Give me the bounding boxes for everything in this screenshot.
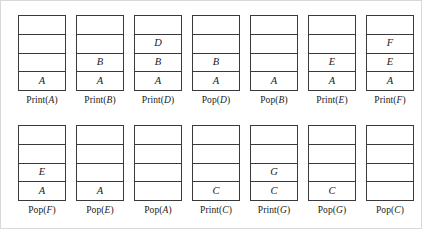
stack-step: CPop(G) [303, 125, 361, 215]
stack-box: EA [18, 125, 66, 201]
stack-box: A [18, 15, 66, 91]
stack-cell-filled: A [193, 72, 239, 90]
stack-cell-empty [309, 35, 355, 54]
stack-cell-filled: E [367, 54, 413, 73]
operation-prefix: Pop( [376, 205, 394, 215]
stack-cell-empty [309, 16, 355, 35]
stack-box: BA [192, 15, 240, 91]
stack-cell-filled: E [309, 54, 355, 73]
stack-operation-label: Print(F) [374, 95, 405, 105]
operation-suffix: ) [229, 205, 232, 215]
stack-cell-empty [367, 145, 413, 164]
stack-cell-empty [367, 16, 413, 35]
stack-step: GCPrint(G) [245, 125, 303, 215]
stack-box: EA [308, 15, 356, 91]
operation-prefix: Pop( [144, 205, 162, 215]
operation-suffix: ) [401, 205, 404, 215]
stack-cell-filled: A [367, 72, 413, 90]
stack-cell-empty [77, 164, 123, 183]
stack-operation-label: Print(G) [258, 205, 290, 215]
stack-box: DBA [134, 15, 182, 91]
stack-step: APop(E) [71, 125, 129, 215]
operation-suffix: ) [285, 95, 288, 105]
stack-cell-empty [193, 145, 239, 164]
stack-step: EAPop(F) [13, 125, 71, 215]
operation-prefix: Print( [200, 205, 222, 215]
stack-step-row-top: APrint(A)BAPrint(B)DBAPrint(D)BAPop(D)AP… [1, 15, 422, 105]
stack-cell-filled: A [77, 72, 123, 90]
stack-cell-empty [309, 164, 355, 183]
stack-cell-empty [367, 164, 413, 183]
operation-prefix: Print( [26, 95, 48, 105]
stack-cell-empty [135, 126, 181, 145]
stack-box: BA [76, 15, 124, 91]
stack-cell-empty [77, 35, 123, 54]
stack-operation-label: Print(C) [200, 205, 232, 215]
stack-cell-empty [19, 35, 65, 54]
stack-cell-filled: B [193, 54, 239, 73]
stack-cell-empty [193, 16, 239, 35]
operation-suffix: ) [402, 95, 405, 105]
stack-cell-filled: A [77, 182, 123, 200]
stack-cell-filled: A [309, 72, 355, 90]
stack-cell-empty [251, 54, 297, 73]
stack-cell-empty [19, 126, 65, 145]
operation-suffix: ) [53, 205, 56, 215]
stack-cell-empty [251, 126, 297, 145]
operation-prefix: Print( [316, 95, 338, 105]
stack-cell-empty [135, 164, 181, 183]
stack-cell-empty [19, 16, 65, 35]
stack-box: FEA [366, 15, 414, 91]
stack-operation-label: Pop(E) [86, 205, 114, 215]
stack-box [134, 125, 182, 201]
operation-prefix: Print( [374, 95, 396, 105]
operation-suffix: ) [171, 95, 174, 105]
stack-cell-empty [135, 182, 181, 200]
stack-cell-empty [309, 145, 355, 164]
stack-step: BAPrint(B) [71, 15, 129, 105]
stack-cell-filled: F [367, 35, 413, 54]
stack-cell-filled: C [309, 182, 355, 200]
stack-step: APop(B) [245, 15, 303, 105]
stack-cell-empty [77, 145, 123, 164]
stack-cell-empty [135, 16, 181, 35]
stack-step: DBAPrint(D) [129, 15, 187, 105]
stack-operation-label: Print(E) [316, 95, 347, 105]
operation-prefix: Print( [142, 95, 164, 105]
stack-box: A [76, 125, 124, 201]
operation-prefix: Pop( [318, 205, 336, 215]
stack-cell-filled: A [251, 72, 297, 90]
operation-argument: D [220, 95, 227, 105]
stack-cell-filled: A [19, 182, 65, 200]
stack-cell-filled: E [19, 164, 65, 183]
stack-operation-label: Pop(G) [318, 205, 347, 215]
stack-operation-label: Print(B) [84, 95, 115, 105]
stack-cell-filled: A [135, 72, 181, 90]
stack-cell-empty [19, 54, 65, 73]
stack-cell-filled: D [135, 35, 181, 54]
operation-prefix: Print( [84, 95, 106, 105]
stack-cell-filled: C [251, 182, 297, 200]
stack-cell-empty [193, 164, 239, 183]
stack-cell-empty [193, 126, 239, 145]
operation-suffix: ) [111, 205, 114, 215]
stack-step: FEAPrint(F) [361, 15, 419, 105]
stack-box [366, 125, 414, 201]
stack-cell-empty [309, 126, 355, 145]
stack-cell-empty [367, 126, 413, 145]
operation-prefix: Pop( [86, 205, 104, 215]
operation-suffix: ) [112, 95, 115, 105]
stack-step-row-bottom: EAPop(F)APop(E)Pop(A)CPrint(C)GCPrint(G)… [1, 125, 422, 215]
operation-suffix: ) [343, 205, 346, 215]
stack-cell-filled: B [135, 54, 181, 73]
operation-suffix: ) [54, 95, 57, 105]
stack-operation-label: Pop(A) [144, 205, 172, 215]
operation-prefix: Pop( [260, 95, 278, 105]
stack-cell-empty [367, 182, 413, 200]
stack-box: C [192, 125, 240, 201]
operation-suffix: ) [287, 205, 290, 215]
stack-cell-filled: B [77, 54, 123, 73]
stack-step: Pop(A) [129, 125, 187, 215]
stack-cell-filled: A [19, 72, 65, 90]
operation-argument: G [280, 205, 287, 215]
